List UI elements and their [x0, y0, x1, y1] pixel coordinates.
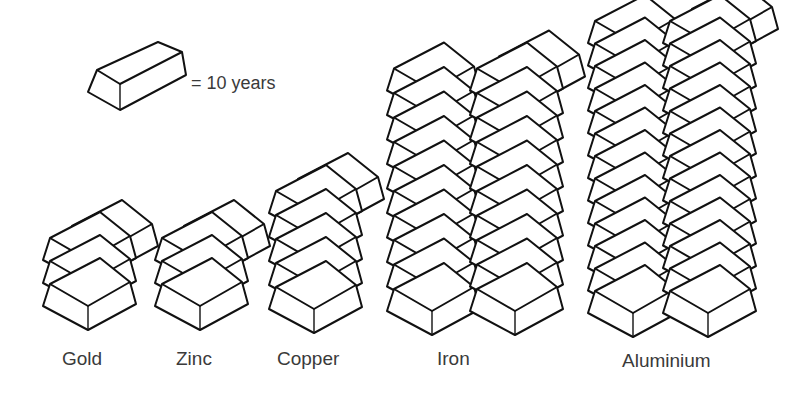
stack-zinc [155, 200, 270, 330]
stack-gold [43, 200, 158, 330]
stack-iron [387, 31, 585, 336]
label-zinc: Zinc [176, 348, 212, 369]
stack-copper [269, 153, 384, 333]
ingot-icon [88, 42, 186, 110]
label-aluminium: Aluminium [622, 350, 711, 371]
label-gold: Gold [62, 348, 102, 369]
label-iron: Iron [437, 348, 470, 369]
pictogram-chart: = 10 years Gold Zinc Copper Iron Alumini… [0, 0, 803, 397]
legend-text: = 10 years [191, 73, 276, 93]
stack-aluminium [588, 0, 778, 337]
label-copper: Copper [277, 348, 340, 369]
legend: = 10 years [88, 42, 276, 110]
category-labels: Gold Zinc Copper Iron Aluminium [62, 348, 711, 371]
